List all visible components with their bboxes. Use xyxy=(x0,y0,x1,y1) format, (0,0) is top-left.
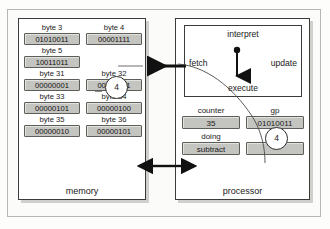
register-label: gp xyxy=(246,105,304,116)
byte-value: 00000001 xyxy=(24,79,80,91)
byte-row: byte 35 00000010 byte 36 00000101 xyxy=(24,115,142,137)
register-cell-doing: doing subtract xyxy=(182,131,240,155)
processor-panel: interpret fetch update execute counter 3… xyxy=(175,18,310,200)
byte-value: 00000010 xyxy=(24,125,80,137)
byte-cell: byte 3 01010011 xyxy=(24,23,80,45)
byte-row: byte 5 10011011 xyxy=(24,46,142,68)
update-label: update xyxy=(271,58,297,68)
byte-value: 00000101 xyxy=(24,102,80,114)
byte-label: byte 4 xyxy=(86,23,142,33)
byte-label: byte 35 xyxy=(24,115,80,125)
execute-label: execute xyxy=(185,83,301,93)
fetch-label: fetch xyxy=(189,58,208,68)
register-cell-gp: gp 01010011 xyxy=(246,105,304,129)
byte-cell: byte 36 00000101 xyxy=(86,115,142,137)
byte-row: byte 3 01010011 byte 4 00001111 xyxy=(24,23,142,45)
byte-cell: byte 33 00000101 xyxy=(24,92,80,114)
byte-value: 01010011 xyxy=(24,33,80,45)
memory-token-circle: 4 xyxy=(105,76,128,99)
register-cell-counter: counter 35 xyxy=(182,105,240,129)
memory-caption: memory xyxy=(19,186,145,196)
register-label: counter xyxy=(182,105,240,116)
using-token-circle: 4 xyxy=(265,127,288,150)
register-value: 35 xyxy=(182,116,240,129)
byte-label: byte 5 xyxy=(24,46,80,56)
interpret-title: interpret xyxy=(185,29,301,39)
byte-label: byte 33 xyxy=(24,92,80,102)
byte-value: 00000100 xyxy=(86,102,142,114)
byte-cell: byte 35 00000010 xyxy=(24,115,80,137)
byte-value: 10011011 xyxy=(24,56,80,68)
processor-caption: processor xyxy=(176,186,309,196)
byte-cell: byte 5 10011011 xyxy=(24,46,80,68)
memory-token-dash xyxy=(95,91,102,92)
byte-cell: byte 31 00000001 xyxy=(24,69,80,91)
interpret-box: interpret fetch update execute xyxy=(184,25,302,97)
byte-label: byte 36 xyxy=(86,115,142,125)
register-row: counter 35 gp 01010011 xyxy=(182,105,304,129)
byte-cell: byte 4 00001111 xyxy=(86,23,142,45)
byte-value: 00001111 xyxy=(86,33,142,45)
figure-canvas: byte 3 01010011 byte 4 00001111 byte 5 1… xyxy=(0,0,330,229)
byte-label: byte 3 xyxy=(24,23,80,33)
byte-value: 00000101 xyxy=(86,125,142,137)
register-value: subtract xyxy=(182,142,240,155)
byte-label: byte 31 xyxy=(24,69,80,79)
register-label: doing xyxy=(182,131,240,142)
register-row: doing subtract using 4 4 xyxy=(182,131,304,155)
processor-register-grid: counter 35 gp 01010011 doing subtract us… xyxy=(182,105,304,157)
memory-panel: byte 3 01010011 byte 4 00001111 byte 5 1… xyxy=(18,18,146,200)
register-cell-using: using 4 4 xyxy=(246,131,304,155)
